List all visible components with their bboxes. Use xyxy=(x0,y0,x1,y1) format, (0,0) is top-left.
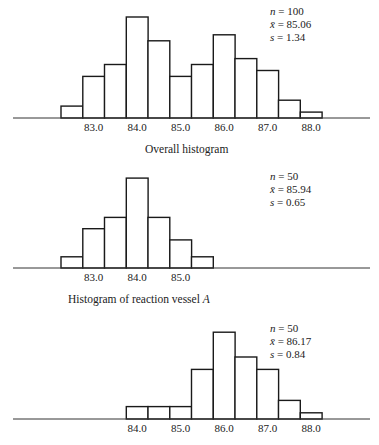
histogram-bar xyxy=(148,41,170,118)
vessel-a-stat-n: n = 50 xyxy=(270,170,299,182)
x-tick-label: 83.0 xyxy=(84,271,104,283)
histogram-bar xyxy=(61,106,83,118)
histogram-bar xyxy=(235,357,257,419)
histogram-bar xyxy=(170,76,192,118)
histogram-bar xyxy=(170,407,192,419)
vessel-a-stat-s: s = 0.65 xyxy=(270,196,306,208)
overall-stat-n: n = 100 xyxy=(270,5,304,17)
histogram-bar xyxy=(83,76,105,118)
x-tick-label: 88.0 xyxy=(301,422,321,434)
x-tick-label: 87.0 xyxy=(258,121,278,133)
histogram-bar xyxy=(126,17,148,118)
vessel-b-stat-mean: x̄ = 86.17 xyxy=(269,335,312,347)
histogram-bar xyxy=(148,217,170,268)
histogram-bar xyxy=(279,100,301,118)
histogram-bar xyxy=(105,65,127,119)
x-tick-label: 83.0 xyxy=(84,121,104,133)
histogram-bar xyxy=(105,217,127,268)
histogram-bar xyxy=(170,240,192,268)
histogram-bar xyxy=(300,413,322,419)
x-tick-label: 85.0 xyxy=(171,121,191,133)
histogram-bar xyxy=(213,332,235,419)
histogram-bar xyxy=(235,59,257,118)
histogram-bar xyxy=(300,112,322,118)
histogram-bar xyxy=(192,369,214,419)
x-tick-label: 84.0 xyxy=(127,121,147,133)
vessel-a-caption: Histogram of reaction vessel A xyxy=(68,293,211,306)
overall-tick-labels: 83.084.085.086.087.088.0 xyxy=(84,121,321,133)
overall-caption: Overall histogram xyxy=(145,143,228,156)
panel-overall: 83.084.085.086.087.088.0 n = 100 x̄ = 85… xyxy=(13,5,370,156)
x-tick-label: 84.0 xyxy=(127,422,147,434)
overall-stat-mean: x̄ = 85.06 xyxy=(269,18,312,30)
x-tick-label: 88.0 xyxy=(301,121,321,133)
x-tick-label: 86.0 xyxy=(214,422,234,434)
histogram-bar xyxy=(148,407,170,419)
histogram-bar xyxy=(83,229,105,268)
vessel-a-tick-labels: 83.084.085.0 xyxy=(84,271,191,283)
overall-stat-s: s = 1.34 xyxy=(270,31,306,43)
histogram-bar xyxy=(257,71,279,119)
panel-vessel-b: 84.085.086.087.088.0 n = 50 x̄ = 86.17 s… xyxy=(13,322,370,434)
panel-vessel-a: 83.084.085.0 n = 50 x̄ = 85.94 s = 0.65 … xyxy=(13,170,370,306)
histogram-bar xyxy=(126,178,148,268)
histogram-bar xyxy=(192,257,214,268)
histogram-bar xyxy=(61,257,83,268)
x-tick-label: 85.0 xyxy=(171,422,191,434)
x-tick-label: 86.0 xyxy=(214,121,234,133)
vessel-b-stat-n: n = 50 xyxy=(270,322,299,334)
vessel-a-bars xyxy=(61,178,213,268)
histogram-bar xyxy=(126,407,148,419)
vessel-b-stat-s: s = 0.84 xyxy=(270,348,306,360)
histogram-figure: 83.084.085.086.087.088.0 n = 100 x̄ = 85… xyxy=(0,0,379,445)
x-tick-label: 87.0 xyxy=(258,422,278,434)
histogram-bar xyxy=(279,400,301,419)
x-tick-label: 85.0 xyxy=(171,271,191,283)
x-tick-label: 84.0 xyxy=(127,271,147,283)
histogram-bar xyxy=(213,35,235,118)
vessel-a-stat-mean: x̄ = 85.94 xyxy=(269,183,312,195)
histogram-bar xyxy=(192,65,214,119)
histogram-bar xyxy=(257,369,279,419)
vessel-b-tick-labels: 84.085.086.087.088.0 xyxy=(127,422,321,434)
